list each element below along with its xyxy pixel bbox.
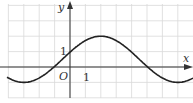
curve — [7, 36, 193, 82]
function-graph: y x O 1 1 — [0, 0, 193, 103]
x-axis-label: x — [183, 52, 190, 65]
y-unit-label: 1 — [60, 45, 67, 58]
x-unit-label: 1 — [83, 71, 90, 84]
y-axis-label: y — [57, 1, 65, 14]
grid — [8, 4, 193, 98]
origin-label: O — [59, 70, 68, 83]
